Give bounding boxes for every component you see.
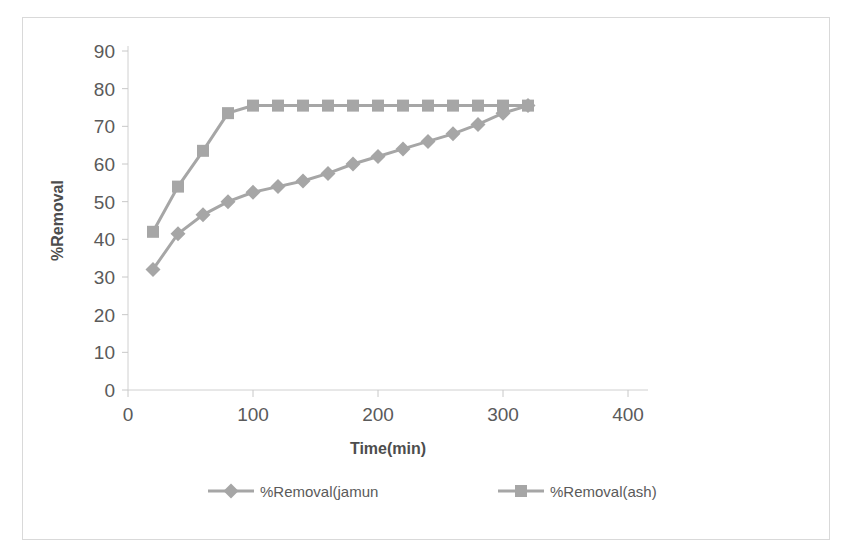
- x-tick-label: 100: [237, 404, 269, 425]
- y-tick-label: 80: [94, 79, 115, 100]
- series-marker: [222, 107, 234, 119]
- x-tick-label: 300: [487, 404, 519, 425]
- y-tick-label: 0: [104, 380, 115, 401]
- series-marker: [446, 126, 461, 141]
- series-marker: [371, 149, 386, 164]
- x-tick-label: 400: [612, 404, 644, 425]
- legend-marker: [224, 484, 239, 499]
- x-axis-title: Time(min): [350, 440, 426, 457]
- series-marker: [321, 166, 336, 181]
- legend-item-2[interactable]: %Removal(ash): [498, 483, 657, 500]
- series-marker: [322, 100, 334, 112]
- series-marker: [522, 100, 534, 112]
- series-marker: [422, 100, 434, 112]
- series-marker: [221, 194, 236, 209]
- x-tick-label: 200: [362, 404, 394, 425]
- y-tick-label: 10: [94, 342, 115, 363]
- series-marker: [396, 141, 411, 156]
- series-1: [146, 98, 536, 277]
- legend-label: %Removal(jamun: [260, 483, 378, 500]
- series-marker: [297, 100, 309, 112]
- y-tick-label: 70: [94, 116, 115, 137]
- series-marker: [247, 100, 259, 112]
- series-line: [153, 106, 528, 270]
- plot-area: 01020304050607080900100200300400Time(min…: [23, 18, 831, 541]
- y-tick-label: 30: [94, 267, 115, 288]
- series-marker: [172, 181, 184, 193]
- series-marker: [272, 100, 284, 112]
- series-marker: [197, 145, 209, 157]
- series-marker: [447, 100, 459, 112]
- chart-figure: 01020304050607080900100200300400Time(min…: [22, 17, 830, 540]
- legend-item-1[interactable]: %Removal(jamun: [208, 483, 378, 500]
- y-tick-label: 60: [94, 154, 115, 175]
- series-marker: [271, 179, 286, 194]
- series-marker: [372, 100, 384, 112]
- y-axis-title: %Removal: [49, 180, 66, 261]
- series-marker: [296, 173, 311, 188]
- series-marker: [147, 226, 159, 238]
- line-chart: 01020304050607080900100200300400Time(min…: [23, 18, 831, 541]
- series-marker: [347, 100, 359, 112]
- series-marker: [421, 134, 436, 149]
- series-marker: [472, 100, 484, 112]
- series-marker: [246, 185, 261, 200]
- series-marker: [397, 100, 409, 112]
- y-tick-label: 90: [94, 41, 115, 62]
- x-tick-label: 0: [123, 404, 134, 425]
- series-marker: [346, 157, 361, 172]
- y-tick-label: 40: [94, 229, 115, 250]
- y-tick-label: 20: [94, 305, 115, 326]
- series-marker: [497, 100, 509, 112]
- series-marker: [471, 117, 486, 132]
- y-tick-label: 50: [94, 192, 115, 213]
- legend-marker: [515, 485, 527, 497]
- legend-label: %Removal(ash): [550, 483, 657, 500]
